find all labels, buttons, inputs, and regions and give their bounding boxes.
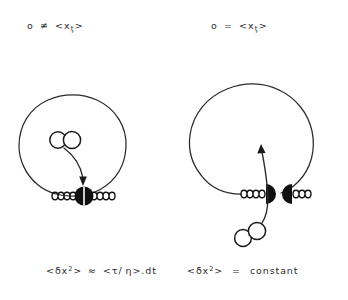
right-panel-equation: <δx2>=constant [187, 265, 298, 300]
eq-right-delta: δ [196, 265, 203, 276]
left-panel-equation: <δx2>≈<τ/η>.dt [46, 265, 157, 300]
right-label-bracket-open: < [239, 20, 248, 31]
eq-left-rhs-open: < [103, 265, 112, 276]
left-label-relation: ≠ [40, 20, 49, 31]
right-panel-right-spring-coil [293, 190, 311, 198]
left-label-bracket-open: < [55, 20, 64, 31]
diagram-canvas [0, 0, 348, 300]
left-label-variable: x [64, 20, 71, 31]
right-label-variable: x [248, 20, 255, 31]
eq-left-rhs-close: > [132, 265, 141, 276]
right-label-bracket-close: > [259, 20, 268, 31]
right-panel [189, 84, 313, 247]
right-label-relation: = [224, 20, 233, 31]
particle-dimer [235, 222, 266, 246]
right-panel-condition-label: o=<xƫ> [211, 20, 268, 33]
transition-arrow-down [64, 148, 87, 186]
right-spring-coil [91, 192, 115, 200]
left-panel-condition-label: o≠<xƫ> [27, 20, 84, 33]
left-panel [19, 95, 126, 206]
eq-left-dt: dt [145, 265, 157, 276]
eq-right-rhs: constant [250, 265, 299, 276]
eq-left-delta: δ [55, 265, 62, 276]
eq-left-relation: ≈ [88, 265, 97, 276]
right-label-lhs: o [211, 20, 218, 31]
eq-left-bracket-close: > [73, 265, 82, 276]
eq-left-bracket-open: < [46, 265, 55, 276]
eq-right-relation: = [232, 265, 241, 276]
eq-right-bracket-close: > [214, 265, 223, 276]
eq-right-bracket-open: < [187, 265, 196, 276]
right-ring-right-arc [279, 90, 313, 193]
particle-dimer [50, 131, 81, 148]
split-bead-joined [75, 187, 94, 206]
bead-half-right [282, 184, 292, 204]
left-label-bracket-close: > [75, 20, 84, 31]
left-label-lhs: o [27, 20, 34, 31]
eq-left-slash: / [118, 265, 122, 276]
right-panel-left-spring-coil [241, 190, 265, 198]
